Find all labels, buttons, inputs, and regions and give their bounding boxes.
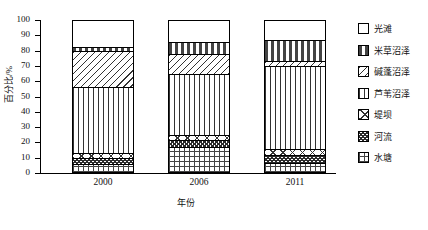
y-axis-tick xyxy=(35,97,40,98)
y-axis-tick-label: 10 xyxy=(8,153,30,162)
x-axis-tick-label-2000: 2000 xyxy=(72,177,134,187)
legend-label: 米草沼泽 xyxy=(374,44,410,57)
chart-legend: 光滩米草沼泽碱蓬沼泽芦苇沼泽堤坝河流水塘 xyxy=(358,18,428,169)
x-axis-tick-label-2011: 2011 xyxy=(264,177,326,187)
y-axis-tick-label: 0 xyxy=(8,168,30,177)
bar-segment-芦苇沼泽-2011 xyxy=(265,66,325,149)
x-axis-tick-label-2006: 2006 xyxy=(168,177,230,187)
y-axis-tick-label: 60 xyxy=(8,76,30,85)
y-axis-tick xyxy=(35,35,40,36)
y-axis-tick-label: 100 xyxy=(8,15,30,24)
bar-segment-河流-2006 xyxy=(169,140,229,147)
y-axis-tick xyxy=(35,127,40,128)
y-axis-tick-label: 90 xyxy=(8,30,30,39)
y-axis-tick xyxy=(35,51,40,52)
stacked-bar-chart: 百分比/% 0102030405060708090100 20002006201… xyxy=(0,0,428,230)
y-axis-line xyxy=(40,20,41,174)
bar-segment-碱蓬沼泽-2006 xyxy=(169,54,229,74)
y-axis-tick-label: 50 xyxy=(8,92,30,101)
bar-segment-碱蓬沼泽-2000 xyxy=(73,51,133,88)
legend-label: 芦苇沼泽 xyxy=(374,87,410,100)
y-axis-tick xyxy=(35,158,40,159)
y-axis-tick-label: 20 xyxy=(8,137,30,146)
y-axis-tick-label: 30 xyxy=(8,122,30,131)
bar-2000 xyxy=(72,20,134,173)
bar-2011 xyxy=(264,20,326,173)
legend-swatch-jianpeng-icon xyxy=(358,66,369,77)
legend-label: 水塘 xyxy=(374,151,392,164)
legend-swatch-heliu-icon xyxy=(358,131,369,142)
bar-segment-芦苇沼泽-2000 xyxy=(73,87,133,153)
bar-segment-水塘-2000 xyxy=(73,164,133,173)
legend-swatch-diba-icon xyxy=(358,109,369,120)
bar-segment-河流-2000 xyxy=(73,158,133,164)
y-axis-tick xyxy=(35,142,40,143)
bar-segment-光滩-2006 xyxy=(169,20,229,42)
legend-item-米草沼泽: 米草沼泽 xyxy=(358,40,428,62)
legend-label: 光滩 xyxy=(374,22,392,35)
legend-item-堤坝: 堤坝 xyxy=(358,104,428,126)
bar-segment-米草沼泽-2011 xyxy=(265,40,325,61)
bar-segment-米草沼泽-2000 xyxy=(73,47,133,51)
legend-swatch-guangtan-icon xyxy=(358,23,369,34)
bar-segment-光滩-2000 xyxy=(73,20,133,47)
legend-label: 碱蓬沼泽 xyxy=(374,65,410,78)
bar-segment-光滩-2011 xyxy=(265,20,325,40)
legend-label: 堤坝 xyxy=(374,108,392,121)
y-axis-tick xyxy=(35,173,40,174)
y-axis-tick xyxy=(35,81,40,82)
y-axis-tick xyxy=(35,20,40,21)
y-axis-tick-label: 80 xyxy=(8,46,30,55)
legend-swatch-micao-icon xyxy=(358,45,369,56)
y-axis-tick-label: 70 xyxy=(8,61,30,70)
legend-item-水塘: 水塘 xyxy=(358,147,428,169)
legend-item-河流: 河流 xyxy=(358,126,428,148)
legend-swatch-luwei-icon xyxy=(358,88,369,99)
y-axis-tick-label: 40 xyxy=(8,107,30,116)
bar-segment-碱蓬沼泽-2011 xyxy=(265,61,325,66)
bar-segment-堤坝-2000 xyxy=(73,153,133,158)
x-axis-label: 年份 xyxy=(0,196,372,209)
bar-segment-水塘-2011 xyxy=(265,163,325,173)
bar-segment-堤坝-2011 xyxy=(265,149,325,156)
legend-item-芦苇沼泽: 芦苇沼泽 xyxy=(358,83,428,105)
bar-segment-芦苇沼泽-2006 xyxy=(169,74,229,135)
legend-swatch-shuitang-icon xyxy=(358,152,369,163)
bar-2006 xyxy=(168,20,230,173)
legend-item-光滩: 光滩 xyxy=(358,18,428,40)
y-axis-tick xyxy=(35,112,40,113)
bar-segment-河流-2011 xyxy=(265,155,325,163)
bar-segment-堤坝-2006 xyxy=(169,135,229,140)
x-axis-line xyxy=(40,173,336,174)
y-axis-tick xyxy=(35,66,40,67)
bar-segment-水塘-2006 xyxy=(169,147,229,173)
legend-label: 河流 xyxy=(374,130,392,143)
bar-segment-米草沼泽-2006 xyxy=(169,42,229,53)
legend-item-碱蓬沼泽: 碱蓬沼泽 xyxy=(358,61,428,83)
